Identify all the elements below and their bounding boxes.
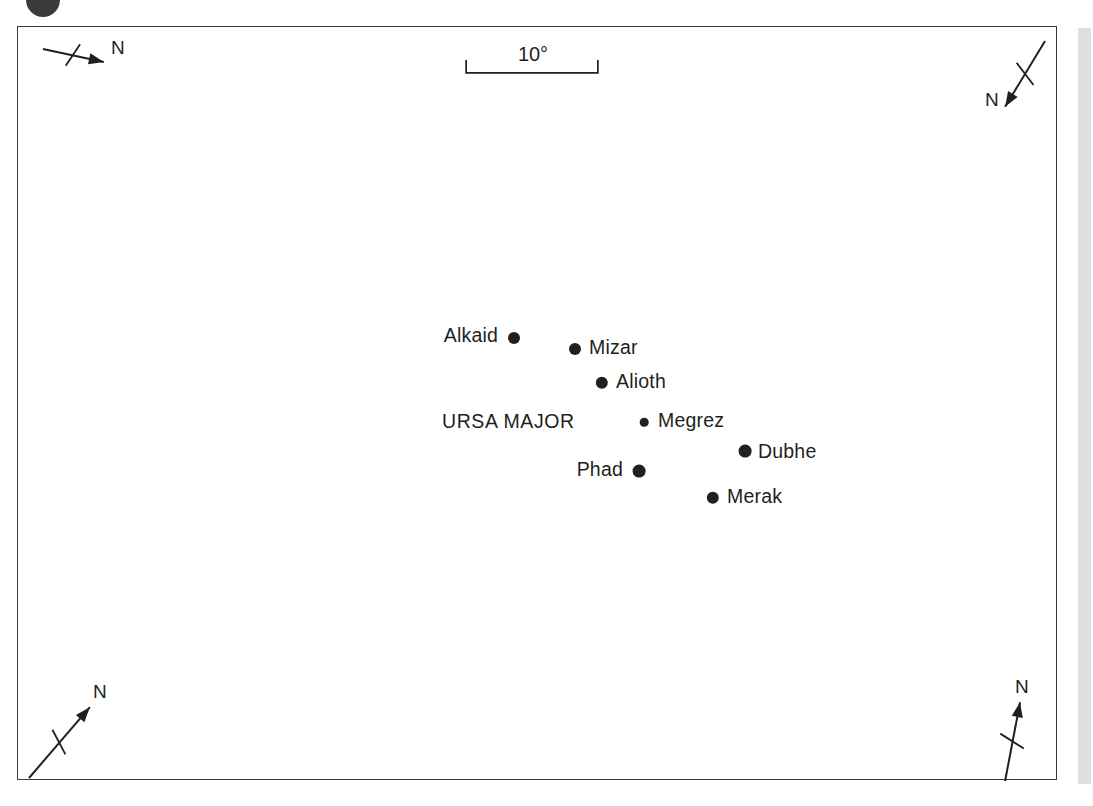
star-dot (739, 445, 752, 458)
compass-top-left-icon (43, 44, 104, 66)
compass-arrowhead (1005, 91, 1018, 107)
star-dot (640, 418, 649, 427)
compass-arrowhead (1012, 702, 1023, 718)
star-label: Alkaid (444, 324, 498, 347)
star-label: Merak (727, 485, 782, 508)
star-label: Phad (577, 458, 623, 481)
compass-top-right-icon (1005, 41, 1045, 107)
compass-cross-tick (1017, 63, 1034, 85)
star-label: Dubhe (758, 440, 816, 463)
constellation-name-label: URSA MAJOR (442, 410, 575, 433)
right-margin-strip (1078, 28, 1091, 784)
scale-bar-value: 10° (518, 43, 548, 66)
map-frame: 10° NNNN AlkaidMizarAliothMegrezDubhePha… (17, 26, 1057, 780)
page-corner-bullet-icon (26, 0, 60, 17)
compass-top-left-label: N (111, 37, 125, 59)
compass-bottom-left-icon (29, 707, 90, 778)
star-chart-page: 10° NNNN AlkaidMizarAliothMegrezDubhePha… (0, 0, 1093, 806)
star-dot (508, 332, 520, 344)
compass-bottom-right-icon (1000, 702, 1024, 781)
star-label: Mizar (589, 336, 638, 359)
compass-bottom-left-label: N (93, 681, 107, 703)
star-label: Alioth (616, 370, 666, 393)
star-dot (633, 465, 646, 478)
compass-arrowhead (88, 53, 104, 64)
map-canvas (18, 27, 1056, 779)
star-dot (569, 343, 581, 355)
compass-bottom-right-label: N (1015, 676, 1029, 698)
compass-top-right-label: N (985, 89, 999, 111)
compass-cross-tick (52, 730, 65, 755)
star-label: Megrez (658, 409, 724, 432)
